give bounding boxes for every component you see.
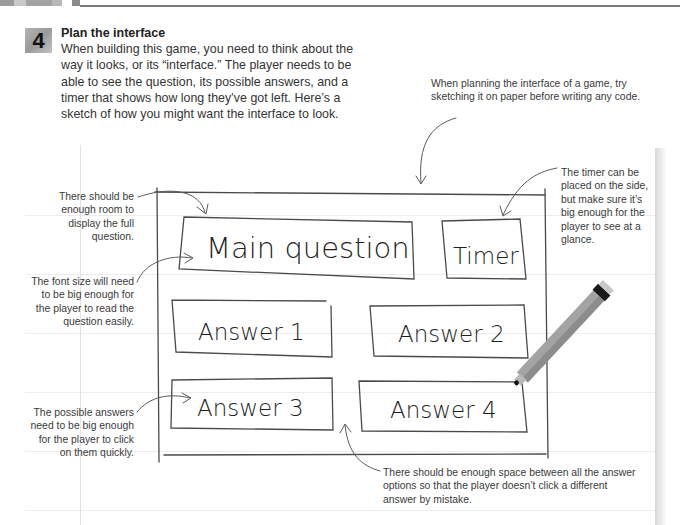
marker-pen-icon: [509, 279, 614, 390]
sketch-timer-label: Timer: [453, 243, 519, 269]
sketch-main-question-label: Main question: [206, 231, 410, 265]
sketch-answer-3-label: Answer 3: [197, 395, 304, 421]
sketch-answer-1-label: Answer 1: [198, 319, 305, 345]
sketch-answer-4-label: Answer 4: [390, 397, 497, 423]
frame-top-edge: [155, 192, 545, 195]
interface-sketch: Main question Timer Answer 1 Answer 2 An…: [0, 0, 680, 525]
sketch-answer-2-label: Answer 2: [398, 321, 505, 347]
